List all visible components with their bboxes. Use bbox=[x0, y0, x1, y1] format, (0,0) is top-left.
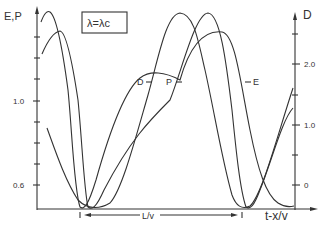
arrow-left-icon bbox=[84, 213, 91, 217]
condition-label: λ=λc bbox=[87, 17, 110, 29]
period-label: L/v bbox=[142, 211, 155, 221]
right-tick-label-2-0: 2.0 bbox=[304, 60, 316, 69]
right-tick-label-1-0: 1.0 bbox=[304, 121, 316, 130]
right-axis-label: D bbox=[303, 8, 312, 22]
chart-svg: E,P D t-x/v λ=λc L/v 1.0 0.6 2.0 1.0 0 D… bbox=[0, 0, 333, 233]
right-tick-label-0: 0 bbox=[304, 181, 309, 190]
curve-label-p: P bbox=[166, 77, 172, 87]
right-ticks bbox=[292, 34, 300, 185]
left-tick-label-0-6: 0.6 bbox=[13, 181, 25, 190]
x-axis-arrow-icon bbox=[310, 207, 318, 211]
curve-label-e: E bbox=[253, 77, 259, 87]
arrow-right-icon bbox=[231, 213, 238, 217]
right-axis-arrow-icon bbox=[293, 12, 297, 20]
left-axis-label: E,P bbox=[4, 10, 22, 22]
left-tick-label-1-0: 1.0 bbox=[13, 97, 25, 106]
figure: E,P D t-x/v λ=λc L/v 1.0 0.6 2.0 1.0 0 D… bbox=[0, 0, 333, 233]
curve-label-d: D bbox=[137, 77, 144, 87]
curve-p bbox=[42, 13, 293, 208]
left-axis-arrow-icon bbox=[35, 6, 39, 14]
x-axis-label: t-x/v bbox=[265, 209, 288, 223]
